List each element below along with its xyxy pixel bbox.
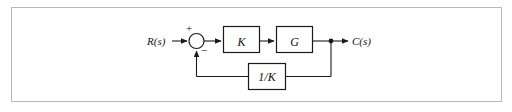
output-signal-label: C(s) — [352, 35, 371, 48]
block-label-feedback-inv-k: 1/K — [258, 70, 276, 84]
summing-plus-sign: + — [186, 22, 192, 34]
block-diagram: R(s) C(s) + − K G 1/K — [0, 0, 512, 112]
block-label-plant-g: G — [290, 35, 299, 49]
input-signal-label: R(s) — [146, 35, 166, 48]
figure-root: R(s) C(s) + − K G 1/K — [0, 0, 512, 112]
block-label-gain-k: K — [236, 35, 246, 49]
summing-minus-sign: − — [201, 44, 207, 56]
